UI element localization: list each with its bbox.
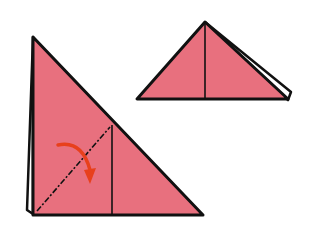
small-triangle <box>137 22 288 99</box>
origami-diagram <box>0 0 309 232</box>
small-triangle-result <box>137 22 291 100</box>
